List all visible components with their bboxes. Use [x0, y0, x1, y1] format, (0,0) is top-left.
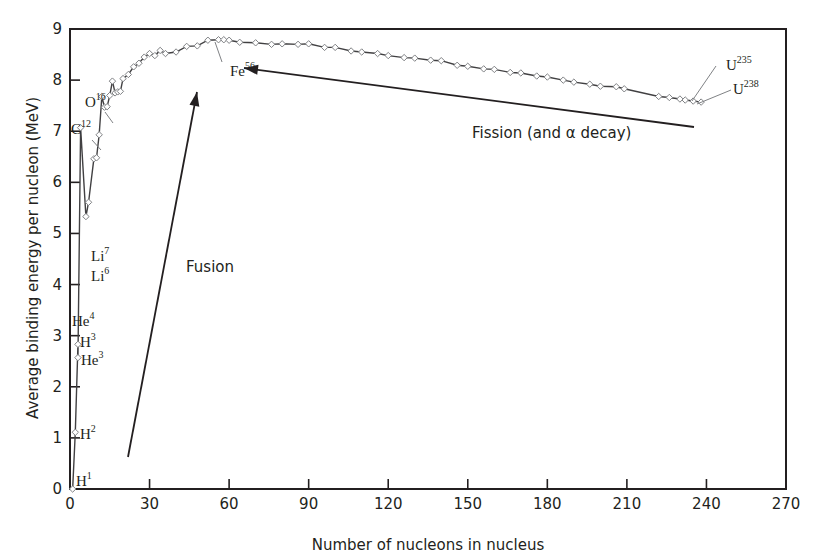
- data-point-marker: [480, 66, 486, 72]
- x-tick-label: 150: [453, 495, 482, 513]
- isotope-label-li7: Li7: [91, 245, 109, 264]
- data-point-marker: [205, 37, 211, 43]
- x-axis-title: Number of nucleons in nucleus: [312, 536, 545, 554]
- data-point-marker: [173, 49, 179, 55]
- y-tick-label: 1: [52, 429, 62, 447]
- x-tick-label: 120: [374, 495, 403, 513]
- data-point-marker: [85, 199, 91, 205]
- data-point-marker: [518, 70, 524, 76]
- data-point-marker: [279, 41, 285, 47]
- isotope-label-he3: He3: [81, 349, 104, 368]
- data-point-marker: [412, 55, 418, 61]
- data-point-marker: [348, 48, 354, 54]
- fusion-arrow-head: [189, 92, 199, 107]
- data-point-marker: [359, 49, 365, 55]
- isotope-labels: H1H2H3He3He4Li6Li7C12O16Fe56U235U238: [71, 42, 759, 489]
- y-tick-label: 2: [52, 378, 62, 396]
- data-point-marker: [571, 79, 577, 85]
- isotope-label-u235: U235: [726, 54, 752, 73]
- data-point-marker: [666, 94, 672, 100]
- fusion-label: Fusion: [186, 258, 234, 276]
- data-point-marker: [587, 81, 593, 87]
- x-axis-ticks: 0306090120150180210240270: [65, 479, 800, 513]
- y-tick-label: 4: [52, 276, 62, 294]
- data-point-marker: [465, 63, 471, 69]
- data-point-marker: [427, 57, 433, 63]
- data-point-marker: [656, 93, 662, 99]
- data-point-marker: [295, 41, 301, 47]
- data-point-marker: [682, 97, 688, 103]
- isotope-leader-line: [215, 42, 222, 62]
- isotope-label-c12: C12: [71, 118, 91, 137]
- data-point-marker: [677, 96, 683, 102]
- x-tick-label: 180: [533, 495, 562, 513]
- isotope-label-h1: H1: [76, 470, 92, 489]
- data-point-marker: [83, 213, 89, 219]
- data-point-marker: [237, 39, 243, 45]
- isotope-leader-line: [92, 140, 101, 150]
- data-point-marker: [96, 132, 102, 138]
- data-point-marker: [507, 69, 513, 75]
- data-point-marker: [268, 41, 274, 47]
- isotope-leader-line: [697, 90, 731, 104]
- isotope-label-h2: H2: [80, 423, 96, 442]
- data-point-marker: [321, 44, 327, 50]
- data-point-marker: [226, 37, 232, 43]
- data-point-marker: [305, 41, 311, 47]
- isotope-leader-line: [105, 112, 113, 123]
- x-tick-label: 30: [140, 495, 159, 513]
- x-tick-label: 0: [65, 495, 75, 513]
- y-tick-label: 8: [52, 71, 62, 89]
- binding-energy-chart: 0306090120150180210240270 0123456789 H1H…: [0, 0, 814, 560]
- data-point-marker: [560, 77, 566, 83]
- isotope-leader-line: [692, 66, 716, 101]
- y-axis-title: Average binding energy per nucleon (MeV): [24, 97, 42, 419]
- data-point-marker: [534, 73, 540, 79]
- data-point-marker: [613, 84, 619, 90]
- data-point-marker: [72, 429, 78, 435]
- data-point-marker: [332, 44, 338, 50]
- x-tick-label: 210: [613, 495, 642, 513]
- fission-label: Fission (and α decay): [472, 124, 631, 142]
- data-point-marker: [544, 74, 550, 80]
- isotope-label-h3: H3: [80, 331, 96, 350]
- x-tick-label: 90: [299, 495, 318, 513]
- y-tick-label: 9: [52, 20, 62, 38]
- y-tick-label: 7: [52, 122, 62, 140]
- fission-arrow-shaft: [244, 68, 694, 127]
- x-tick-label: 270: [772, 495, 801, 513]
- y-tick-label: 5: [52, 224, 62, 242]
- data-point-marker: [597, 83, 603, 89]
- isotope-label-li6: Li6: [91, 265, 109, 284]
- curve-line: [73, 40, 701, 489]
- data-point-marker: [183, 43, 189, 49]
- data-point-marker: [491, 66, 497, 72]
- y-tick-label: 0: [52, 480, 62, 498]
- data-point-marker: [621, 86, 627, 92]
- x-tick-label: 60: [220, 495, 239, 513]
- data-point-marker: [454, 62, 460, 68]
- data-point-marker: [374, 50, 380, 56]
- data-point-marker: [109, 78, 115, 84]
- y-tick-label: 6: [52, 173, 62, 191]
- data-point-marker: [401, 54, 407, 60]
- data-point-marker: [438, 57, 444, 63]
- data-point-marker: [385, 52, 391, 58]
- data-point-marker: [194, 43, 200, 49]
- data-point-marker: [252, 40, 258, 46]
- isotope-label-he4: He4: [72, 310, 95, 329]
- isotope-label-u238: U238: [733, 78, 759, 97]
- y-tick-label: 3: [52, 327, 62, 345]
- x-tick-label: 240: [692, 495, 721, 513]
